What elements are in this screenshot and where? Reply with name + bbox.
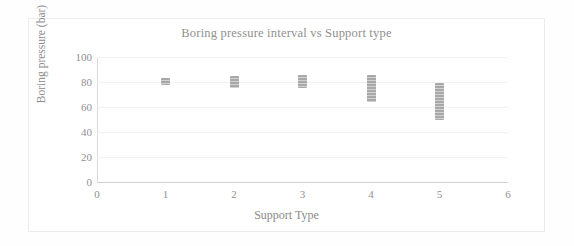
data-point-cluster — [367, 75, 376, 103]
data-point-cluster — [230, 76, 239, 89]
gridline — [97, 132, 508, 133]
chart-title: Boring pressure interval vs Support type — [28, 26, 545, 41]
data-point-cluster — [161, 78, 170, 84]
x-tick-label: 1 — [156, 188, 176, 200]
data-point-cluster — [298, 75, 307, 89]
data-point-cluster — [435, 83, 444, 119]
gridline — [97, 107, 508, 108]
y-tick-label: 100 — [58, 52, 92, 63]
x-tick-label: 6 — [498, 188, 518, 200]
x-tick-label: 3 — [293, 188, 313, 200]
y-tick-label: 60 — [58, 102, 92, 113]
y-axis-title: Boring pressure (bar) — [35, 0, 47, 129]
y-axis-tick-labels: 020406080100 — [56, 57, 92, 182]
y-tick-label: 0 — [58, 177, 92, 188]
x-axis-line — [97, 182, 508, 183]
gridline — [97, 57, 508, 58]
x-tick-label: 5 — [430, 188, 450, 200]
x-axis-tick-labels: 0123456 — [97, 188, 508, 204]
x-tick-label: 2 — [224, 188, 244, 200]
y-tick-label: 20 — [58, 152, 92, 163]
y-tick-label: 40 — [58, 127, 92, 138]
figure-canvas: Boring pressure interval vs Support type… — [0, 0, 574, 246]
x-tick-label: 4 — [361, 188, 381, 200]
x-tick-label: 0 — [87, 188, 107, 200]
plot-area — [97, 57, 508, 182]
gridline — [97, 157, 508, 158]
x-axis-title: Support Type — [28, 208, 545, 223]
y-tick-label: 80 — [58, 77, 92, 88]
